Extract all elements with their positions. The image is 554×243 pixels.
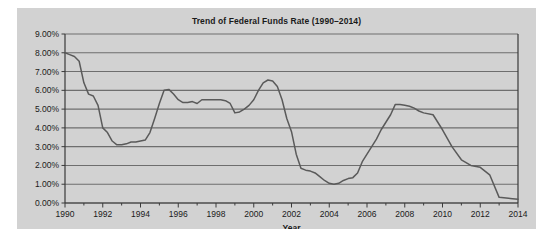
x-axis-tick-label: 2004 [320,209,339,219]
x-axis-tick-label: 1994 [131,209,150,219]
x-axis-tick-label: 2000 [244,209,263,219]
x-axis-tick-label: 2014 [509,209,528,219]
y-axis-tick-label: 8.00% [35,48,60,58]
x-axis-tick-label: 1990 [56,209,75,219]
x-axis-title: Year [283,223,302,229]
x-axis-tick-label: 1998 [207,209,226,219]
y-axis-tick-label: 3.00% [35,142,60,152]
x-axis-tick-label: 2008 [395,209,414,219]
data-series-group [65,53,518,199]
y-axis-tick-label: 1.00% [35,179,60,189]
y-axis-tick-label: 6.00% [35,85,60,95]
line-chart-plot: 0.00%1.00%2.00%3.00%4.00%5.00%6.00%7.00%… [17,8,536,229]
y-axis-tick-label: 7.00% [35,67,60,77]
data-series-line [65,53,518,199]
chart-figure: Trend of Federal Funds Rate (1990–2014) … [17,8,536,229]
x-axis-tick-labels-group: 1990199219941996199820002002200420062008… [56,209,528,219]
x-axis-tick-label: 2012 [471,209,490,219]
x-axis-tick-label: 1996 [169,209,188,219]
x-axis-tick-label: 2010 [433,209,452,219]
y-axis-tick-label: 9.00% [35,29,60,39]
x-axis-tick-label: 2002 [282,209,301,219]
y-axis-tick-label: 4.00% [35,123,60,133]
x-axis-tick-label: 1992 [93,209,112,219]
x-axis-tick-label: 2006 [358,209,377,219]
y-axis-tick-label: 2.00% [35,160,60,170]
y-axis-tick-labels-group: 0.00%1.00%2.00%3.00%4.00%5.00%6.00%7.00%… [35,29,60,208]
gridlines-group [65,34,518,203]
y-axis-tick-label: 0.00% [35,198,60,208]
y-axis-tick-label: 5.00% [35,104,60,114]
axis-lines-group [65,34,518,203]
x-axis-ticks-group [65,203,518,208]
